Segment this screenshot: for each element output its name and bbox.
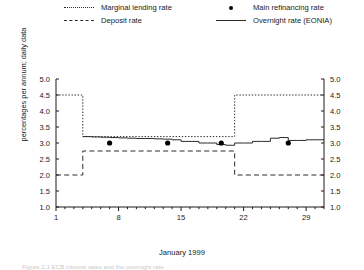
- y-tick-label-right: 5.0: [330, 75, 341, 84]
- x-tick-label: 1: [54, 213, 58, 222]
- x-tick-label: 29: [302, 213, 310, 222]
- y-tick-label-right: 1.0: [330, 203, 341, 212]
- plot-area: 1.01.01.51.52.02.02.52.53.03.03.53.54.04…: [0, 0, 364, 270]
- y-tick-label-left: 3.5: [39, 123, 50, 132]
- y-tick-label-left: 4.5: [39, 91, 50, 100]
- series-line-deposit-rate: [56, 151, 324, 175]
- data-point-main-refinancing-rate: [219, 140, 224, 145]
- figure-caption: Figure 2.1 ECB interest rates and the ov…: [22, 263, 352, 270]
- y-tick-label-left: 2.5: [39, 155, 50, 164]
- y-tick-label-right: 4.5: [330, 91, 341, 100]
- figure-container: Marginal lending rate Deposit rate Main …: [0, 0, 364, 270]
- y-tick-label-right: 2.0: [330, 171, 341, 180]
- x-tick-label: 22: [239, 213, 247, 222]
- data-point-main-refinancing-rate: [165, 140, 170, 145]
- series-line-marginal-lending-rate: [56, 95, 324, 137]
- x-tick-label: 8: [116, 213, 120, 222]
- y-tick-label-left: 4.0: [39, 107, 50, 116]
- y-tick-label-left: 3.0: [39, 139, 50, 148]
- y-tick-label-right: 3.0: [330, 139, 341, 148]
- chart-render-group: 1.01.01.51.52.02.02.52.53.03.03.53.54.04…: [39, 75, 340, 222]
- x-axis-title: January 1999: [0, 248, 364, 257]
- x-tick-label: 15: [177, 213, 185, 222]
- y-tick-label-left: 1.5: [39, 187, 50, 196]
- y-tick-label-left: 1.0: [39, 203, 50, 212]
- chart-svg: 1.01.01.51.52.02.02.52.53.03.03.53.54.04…: [0, 0, 364, 270]
- data-point-main-refinancing-rate: [286, 140, 291, 145]
- y-tick-label-right: 2.5: [330, 155, 341, 164]
- y-tick-label-left: 5.0: [39, 75, 50, 84]
- y-tick-label-right: 1.5: [330, 187, 341, 196]
- y-tick-label-right: 3.5: [330, 123, 341, 132]
- y-tick-label-right: 4.0: [330, 107, 341, 116]
- data-point-main-refinancing-rate: [107, 140, 112, 145]
- y-tick-label-left: 2.0: [39, 171, 50, 180]
